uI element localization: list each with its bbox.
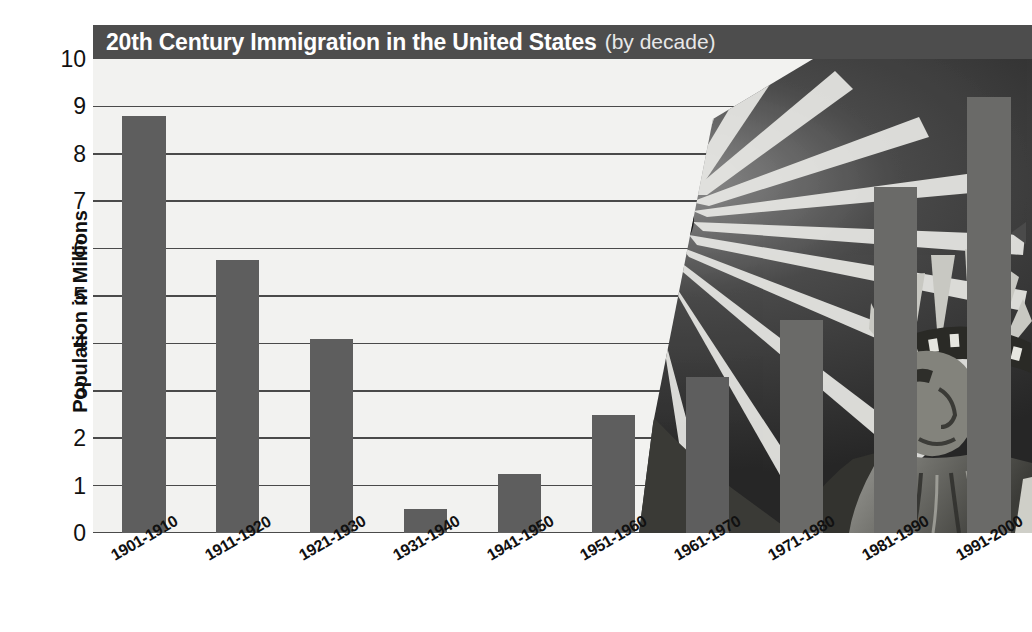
x-axis-tick-labels: 1901-19101911-19201921-19301931-19401941… — [0, 0, 1032, 632]
immigration-bar-chart-figure: 20th Century Immigration in the United S… — [0, 0, 1032, 632]
x-axis-tick-label: 1931-1940 — [390, 512, 463, 565]
x-axis-tick-label: 1921-1930 — [296, 512, 369, 565]
x-axis-tick-label: 1901-1910 — [108, 512, 181, 565]
x-axis-tick-label: 1911-1920 — [202, 513, 274, 565]
x-axis-tick-label: 1981-1990 — [859, 512, 932, 565]
chart-title-bar: 20th Century Immigration in the United S… — [93, 25, 1032, 59]
chart-subtitle: (by decade) — [605, 30, 716, 54]
x-axis-tick-label: 1991-2000 — [953, 512, 1026, 565]
x-axis-tick-label: 1941-1950 — [484, 512, 557, 565]
left-pointing-triangle-icon — [1011, 222, 1026, 244]
chart-title: 20th Century Immigration in the United S… — [106, 29, 597, 56]
x-axis-tick-label: 1971-1980 — [765, 512, 838, 565]
x-axis-tick-label: 1961-1970 — [671, 512, 744, 565]
x-axis-tick-label: 1951-1960 — [577, 512, 650, 565]
